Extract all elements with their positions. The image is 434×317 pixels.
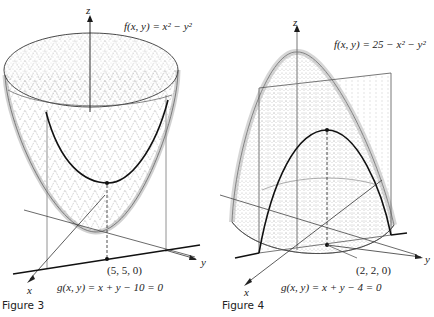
z-axis-label: z (293, 16, 297, 28)
figure-caption: Figure 3 (2, 299, 44, 311)
function-label: f(x, y) = 25 − x² − y² (334, 39, 426, 50)
constraint-plane (259, 73, 391, 253)
point-label: (2, 2, 0) (356, 265, 391, 276)
constraint-label: g(x, y) = x + y − 4 = 0 (281, 282, 382, 293)
y-axis-label: y (201, 256, 206, 268)
y-axis-label: y (425, 253, 430, 265)
function-label: f(x, y) = x² − y² (124, 21, 192, 32)
x-axis-label: x (244, 286, 249, 298)
x-axis-label: x (27, 284, 32, 296)
figure-3: z y x f(x, y) = x² − y² (5, 5, 0) g(x, y… (0, 0, 217, 317)
figure-caption: Figure 4 (222, 299, 264, 311)
z-axis-label: z (86, 4, 90, 16)
constraint-line (235, 253, 259, 258)
max-point-on-curve (325, 128, 329, 132)
point-label: (5, 5, 0) (107, 265, 142, 276)
constraint-label: g(x, y) = x + y − 10 = 0 (57, 282, 163, 293)
max-point-on-curve (105, 181, 109, 185)
figure-4: z y x f(x, y) = 25 − x² − y² (2, 2, 0) g… (217, 0, 434, 317)
